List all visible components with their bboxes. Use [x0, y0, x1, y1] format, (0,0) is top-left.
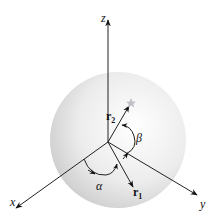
r1-label: r1 — [133, 186, 142, 198]
x-axis-label: x — [10, 196, 15, 208]
sphere — [50, 72, 186, 208]
alpha-label: α — [96, 180, 102, 192]
r2-label: r2 — [106, 110, 115, 122]
beta-label: β — [136, 132, 142, 144]
z-axis-label: z — [101, 12, 106, 24]
y-axis-label: y — [200, 198, 205, 210]
